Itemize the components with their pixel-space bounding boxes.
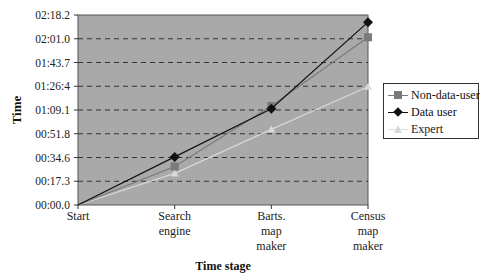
y-tick-label: 00:17.3 <box>35 175 70 187</box>
y-tick-label: 00:51.8 <box>35 128 70 140</box>
y-tick-label: 02:01.0 <box>35 33 70 45</box>
x-tick-label: maker <box>256 239 286 253</box>
x-tick-label: maker <box>353 239 383 253</box>
y-tick-label: 01:09.1 <box>35 104 70 116</box>
diamond-marker-icon <box>388 106 408 118</box>
x-tick-label: map <box>358 224 379 238</box>
y-tick-label: 00:00.0 <box>35 199 70 211</box>
legend: Non-data-user Data user Expert <box>383 83 479 139</box>
x-tick-label: Search <box>158 209 191 223</box>
x-tick-label: Census <box>351 209 386 223</box>
y-tick-label: 01:43.7 <box>35 57 70 69</box>
legend-item-non-data-user: Non-data-user <box>388 87 480 103</box>
triangle-marker-icon <box>388 123 408 135</box>
y-axis-title: Time <box>9 95 24 124</box>
y-tick-label: 02:18.2 <box>35 9 70 21</box>
y-tick-label: 00:34.6 <box>35 152 70 164</box>
square-marker-icon <box>388 89 408 101</box>
x-tick-label: map <box>261 224 282 238</box>
square-marker-icon <box>364 33 372 41</box>
legend-item-expert: Expert <box>388 121 443 137</box>
square-marker-icon <box>171 163 179 171</box>
x-tick-label: engine <box>159 224 191 238</box>
legend-item-data-user: Data user <box>388 104 457 120</box>
x-tick-label: Barts. <box>257 209 285 223</box>
x-tick-label: Start <box>67 209 90 223</box>
x-axis-title: Time stage <box>195 259 251 273</box>
y-tick-label: 01:26:4 <box>35 80 70 92</box>
